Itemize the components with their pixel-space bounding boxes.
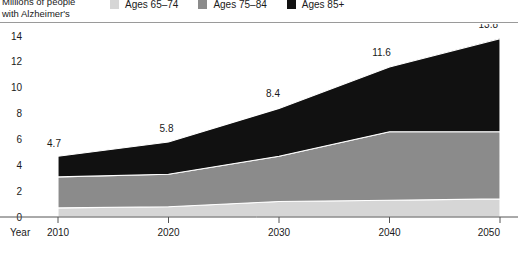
y-axis-title-line1: Millions of people — [2, 0, 122, 8]
legend-swatch-icon — [287, 0, 296, 9]
legend-swatch-icon — [110, 0, 119, 9]
legend-label: Ages 85+ — [302, 0, 345, 10]
x-tick-label: 2050 — [478, 227, 501, 238]
header-divider — [0, 22, 518, 23]
x-tick-label: 2020 — [157, 227, 180, 238]
data-label: 13.8 — [479, 24, 499, 30]
y-tick-label: 6 — [16, 134, 22, 145]
chart-figure: Millions of people with Alzheimer's Ages… — [0, 0, 518, 253]
stacked-areas — [58, 39, 500, 217]
y-axis-title-line2: with Alzheimer's — [2, 8, 122, 20]
legend-label: Ages 65–74 — [125, 0, 178, 10]
legend: Ages 65–74 Ages 75–84 Ages 85+ — [110, 0, 364, 10]
data-label: 5.8 — [160, 123, 174, 134]
y-axis-title: Millions of people with Alzheimer's — [2, 0, 122, 19]
y-axis-tick-labels: 0 2 4 6 8 10 12 14 — [11, 31, 23, 223]
y-tick-label: 8 — [16, 108, 22, 119]
y-tick-label: 4 — [16, 160, 22, 171]
x-axis-title: Year — [10, 227, 31, 238]
x-tick-label: 2040 — [378, 227, 401, 238]
area-chart-svg: 0 2 4 6 8 10 12 14 4.75.88.411.613.8 201… — [0, 24, 518, 253]
y-tick-label: 10 — [11, 82, 23, 93]
x-axis-ticks: 20102020203020402050 — [47, 217, 501, 238]
x-tick-label: 2030 — [268, 227, 291, 238]
data-label: 4.7 — [47, 138, 61, 149]
data-label: 11.6 — [372, 47, 391, 58]
x-tick-label: 2010 — [47, 227, 70, 238]
y-tick-label: 14 — [11, 31, 23, 42]
y-tick-label: 2 — [16, 186, 22, 197]
legend-label: Ages 75–84 — [213, 0, 266, 10]
y-tick-label: 12 — [11, 56, 23, 67]
legend-swatch-icon — [198, 0, 207, 9]
legend-item-ages-75-84: Ages 75–84 — [198, 0, 266, 10]
plot-area: 0 2 4 6 8 10 12 14 4.75.88.411.613.8 201… — [0, 24, 518, 253]
legend-item-ages-85-plus: Ages 85+ — [287, 0, 345, 10]
legend-item-ages-65-74: Ages 65–74 — [110, 0, 178, 10]
data-label: 8.4 — [266, 88, 280, 99]
